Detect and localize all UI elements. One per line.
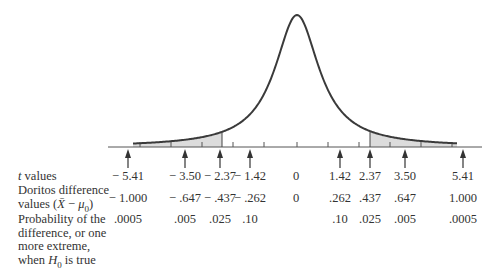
prob-value: .10 (242, 213, 258, 226)
probability-label-line4: when H0 is true (18, 254, 106, 272)
probability-label-line3: more extreme, (18, 240, 106, 254)
t-values-row-label: t values (18, 170, 57, 184)
prob-value: .0005 (114, 213, 142, 226)
probability-row-label: Probability of the difference, or one mo… (18, 213, 106, 272)
t-value: 5.41 (452, 170, 474, 183)
diff-value: − .437 (204, 192, 236, 205)
t-value: 0 (293, 170, 299, 183)
t-distribution-curve (133, 15, 457, 144)
prob-value: .025 (359, 213, 381, 226)
diff-value: − .262 (234, 192, 266, 205)
prob-value: .005 (174, 213, 196, 226)
left-tail-shaded-region (133, 132, 222, 147)
diff-value: − .647 (169, 192, 201, 205)
prob-value: .10 (332, 213, 348, 226)
value-arrows (125, 149, 466, 168)
t-value: − 2.37 (204, 170, 236, 183)
diff-value: 1.000 (449, 192, 477, 205)
diff-value: .647 (394, 192, 416, 205)
t-value: − 5.41 (112, 170, 144, 183)
probability-label-line1: Probability of the (18, 213, 106, 227)
diff-value: .437 (359, 192, 381, 205)
t-value: 1.42 (329, 170, 351, 183)
t-value: 2.37 (359, 170, 381, 183)
t-value: 3.50 (394, 170, 416, 183)
prob-value: .0005 (449, 213, 477, 226)
difference-row-label: Doritos difference values (X̄ − μ0) (18, 184, 109, 216)
right-tail-shaded-region (370, 131, 457, 147)
prob-value: .025 (209, 213, 231, 226)
probability-label-line2: difference, or one (18, 227, 106, 241)
t-row-label-text: values (21, 169, 56, 183)
t-value: − 1.42 (234, 170, 266, 183)
diff-value: − 1.000 (109, 192, 147, 205)
t-value: − 3.50 (169, 170, 201, 183)
prob-value: .005 (394, 213, 416, 226)
diff-value: .262 (329, 192, 351, 205)
difference-label-line1: Doritos difference (18, 184, 109, 198)
diff-value: 0 (293, 192, 299, 205)
